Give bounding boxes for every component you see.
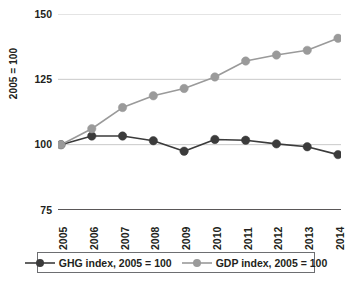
legend-dot xyxy=(36,259,44,267)
data-point-ghg-2008 xyxy=(149,137,157,145)
chart-legend: GHG index, 2005 = 100GDP index, 2005 = 1… xyxy=(37,252,315,273)
line-chart-svg xyxy=(58,14,341,210)
legend-marker-icon xyxy=(182,257,212,269)
x-tick-label-2012: 2012 xyxy=(272,210,284,250)
legend-label: GDP index, 2005 = 100 xyxy=(216,257,328,269)
data-point-ghg-2009 xyxy=(180,147,188,155)
data-point-gdp-2005 xyxy=(58,140,65,148)
series-line-ghg xyxy=(61,136,338,155)
data-point-ghg-2007 xyxy=(118,132,126,140)
data-point-ghg-2010 xyxy=(211,135,219,143)
x-tick-label-2014: 2014 xyxy=(334,210,346,250)
data-point-gdp-2010 xyxy=(211,73,219,81)
data-point-gdp-2007 xyxy=(118,103,126,111)
x-tick-label-2005: 2005 xyxy=(57,210,69,250)
legend-item-ghg[interactable]: GHG index, 2005 = 100 xyxy=(25,257,172,269)
data-point-gdp-2013 xyxy=(303,46,311,54)
x-tick-label-2007: 2007 xyxy=(119,210,131,250)
y-tick-label-125: 125 xyxy=(22,74,52,85)
y-axis-tick-labels: 75100125150 xyxy=(18,14,52,210)
x-tick-label-2011: 2011 xyxy=(242,210,254,250)
data-point-gdp-2014 xyxy=(334,34,341,42)
series-line-gdp xyxy=(61,38,338,144)
x-tick-label-2009: 2009 xyxy=(180,210,192,250)
chart-page: 2005 = 100 75100125150 20052006200720082… xyxy=(0,0,353,282)
data-point-gdp-2012 xyxy=(272,51,280,59)
plot-area xyxy=(58,14,341,210)
x-tick-label-2013: 2013 xyxy=(303,210,315,250)
legend-marker-icon xyxy=(25,257,55,269)
y-tick-label-150: 150 xyxy=(22,9,52,20)
legend-dot xyxy=(193,259,201,267)
data-point-gdp-2009 xyxy=(180,84,188,92)
x-tick-label-2006: 2006 xyxy=(88,210,100,250)
x-axis-tick-labels: 2005200620072008200920102011201220132014 xyxy=(58,212,341,248)
y-tick-label-75: 75 xyxy=(22,205,52,216)
y-tick-label-100: 100 xyxy=(22,139,52,150)
data-point-ghg-2014 xyxy=(334,150,341,158)
x-tick-label-2010: 2010 xyxy=(211,210,223,250)
x-tick-label-2008: 2008 xyxy=(149,210,161,250)
data-point-ghg-2012 xyxy=(272,140,280,148)
data-point-gdp-2011 xyxy=(241,57,249,65)
legend-item-gdp[interactable]: GDP index, 2005 = 100 xyxy=(182,257,328,269)
data-point-gdp-2006 xyxy=(88,125,96,133)
data-point-ghg-2013 xyxy=(303,143,311,151)
data-point-ghg-2011 xyxy=(241,136,249,144)
data-point-gdp-2008 xyxy=(149,92,157,100)
y-axis-title: 2005 = 100 xyxy=(8,19,19,129)
legend-label: GHG index, 2005 = 100 xyxy=(59,257,172,269)
